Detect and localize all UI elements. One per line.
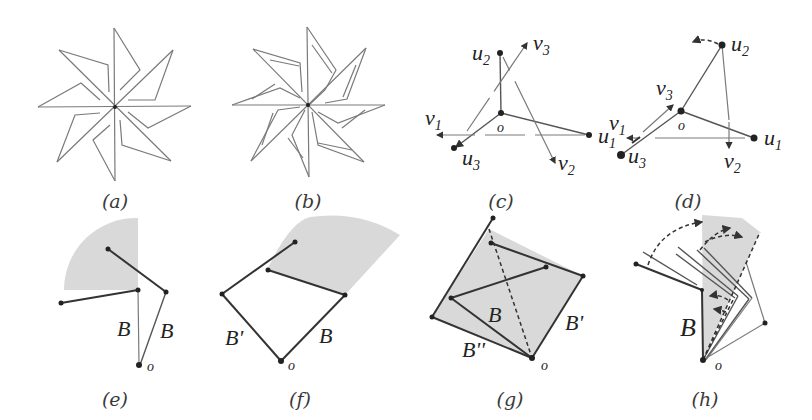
panel-c-u2-label: u2 [472,40,490,68]
panel-g-joint [491,216,496,221]
panel-h-shaded-region [702,215,760,360]
panel-e-shaded-sector [64,218,138,290]
panel-f-joint [266,268,271,273]
panel-e-bar-left-label: B [117,316,130,341]
panel-d-u1-label: u1 [764,125,782,153]
panel-e-joint [164,290,169,295]
panel-g-joint [544,265,549,270]
panel-g-joint [489,241,494,246]
panel-g-joint [430,315,435,320]
panel-h-origin-dot [700,357,706,363]
panel-e-origin-label: o [147,359,154,374]
panel-d-v1-label: v1 [609,110,626,138]
panel-f-shaded-sector [267,215,400,295]
caption-f: (f) [289,388,311,410]
panel-d-v3-label: v3 [656,75,673,103]
caption-g: (g) [497,388,524,410]
panel-g-bar-inner-label: B [488,302,501,327]
panel-c-v1-label: v1 [425,105,442,133]
panel-d-origin-dot [678,108,685,115]
panel-c-links [437,43,589,163]
panel-b-center-dot [306,103,310,107]
caption-b: (b) [295,190,322,212]
panel-f-bar-left-label: B' [225,325,243,350]
panel-h-joint [763,321,768,326]
panel-c-v2-label: v2 [558,150,575,178]
panel-c-u2-dot [497,50,503,56]
panel-d-origin-label: o [678,118,685,133]
panel-c-v3-label: v3 [533,30,550,58]
caption-d: (d) [675,190,702,212]
panel-f-joint [220,292,225,297]
panel-e-origin-dot [136,362,142,368]
panel-f-joint [293,240,298,245]
panel-g-joint [581,274,586,279]
panel-g-joint [449,296,454,301]
panel-a-center-dot [113,105,117,109]
panel-d-u3-dot [617,151,625,159]
caption-e: (e) [102,388,128,410]
panel-h-origin-label: o [715,358,722,373]
panel-c-origin-label: o [497,120,504,135]
caption-h: (h) [691,388,718,410]
panel-e-joint [106,247,111,252]
panel-g-bar-right-label: B' [565,310,583,335]
panel-a-pinwheel [38,28,191,181]
panel-c-u1-dot [586,132,592,138]
panel-f-origin-label: o [288,358,295,373]
panel-d-u2-label: u2 [731,31,749,59]
panel-h-joint [634,262,639,267]
panel-f-joint [343,293,348,298]
panel-f-origin-dot [278,358,284,364]
panel-e-joint [136,288,141,293]
panel-g-origin-label: o [541,358,548,373]
panel-d-u2-dot [719,42,726,49]
panel-e-bar-right-label: B [160,318,173,343]
caption-c: (c) [488,190,513,212]
panel-d-u1-dot [751,135,758,142]
panel-h-bar-label: B [680,313,696,342]
panel-e-joint [59,301,64,306]
panel-g-bar-bottom-label: B'' [462,337,485,362]
panel-b-pinwheel [232,27,385,177]
panel-d-links [621,40,754,155]
panel-h-joint [700,288,704,292]
panel-f-bar-right-label: B [319,323,332,348]
panel-g-origin-dot [529,355,535,361]
panel-d-u3-label: u3 [628,143,646,171]
caption-a: (a) [102,190,128,212]
panel-d-v2-label: v2 [724,148,741,176]
panel-c-origin-dot [498,110,504,116]
panel-c-u3-dot [451,145,457,151]
panel-c-u3-label: u3 [462,145,480,173]
figure-canvas: (a) (b) [0,0,812,420]
